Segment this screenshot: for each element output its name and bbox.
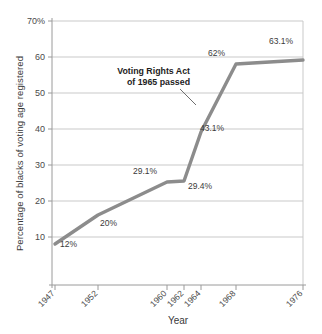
y-tick-label-20: 20 [35,196,45,206]
point-label-1962: 29.4% [188,181,213,191]
x-tick-label-1962: 1962 [165,288,186,309]
x-tick-label-1964: 1964 [182,288,203,309]
y-tick-label-10: 10 [35,232,45,242]
y-tick-label-60: 60 [35,52,45,62]
y-tick-label-70: 70% [27,16,45,26]
y-tick-label-40: 40 [35,124,45,134]
point-label-1976: 63.1% [269,36,294,46]
point-label-1952: 20% [100,218,117,228]
y-tick-label-30: 30 [35,160,45,170]
x-axis-title: Year [52,315,304,326]
point-label-1960: 29.1% [133,166,158,176]
y-tick-label-50: 50 [35,88,45,98]
x-tick-label-1952: 1952 [79,288,100,309]
x-tick-label-1976: 1976 [284,288,305,309]
annotation-line-1: Voting Rights Act [117,66,190,76]
chart-canvas: 70% 60 50 40 30 20 10 1947 1952 1960 196… [0,0,322,334]
x-tick-label-1968: 1968 [217,288,238,309]
y-axis-ticks [48,21,52,237]
line-chart: Percentage of blacks of voting age regis… [0,0,322,334]
point-label-1947: 12% [60,239,77,249]
annotation-line-2: of 1965 passed [127,77,190,87]
y-axis-title: Percentage of blacks of voting age regis… [14,29,25,279]
point-label-1968: 62% [208,48,225,58]
x-tick-label-1960: 1960 [148,288,169,309]
point-label-1964: 43.1% [200,123,225,133]
x-tick-label-1947: 1947 [36,288,57,309]
